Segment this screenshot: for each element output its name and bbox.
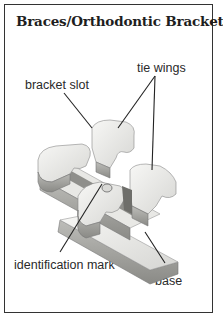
leader-tie-wings-1: [118, 76, 155, 128]
identification-mark-dot: [102, 184, 112, 192]
tie-wing-back-right: [92, 120, 134, 178]
bracket-illustration: [0, 0, 223, 320]
leader-bracket-slot: [64, 93, 92, 128]
leader-tie-wings-2: [152, 76, 155, 170]
